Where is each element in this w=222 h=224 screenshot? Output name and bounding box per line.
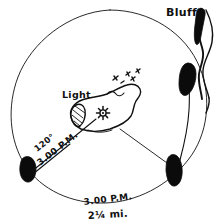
- vessel-mark-lower-right: [166, 155, 182, 186]
- nautical-bearing-diagram: Bluff Light 120° 3.00 P.M. 3.00 P.M. 2¼ …: [0, 0, 222, 224]
- bearing-line-secondary: [120, 129, 167, 163]
- light-star-icon: [97, 107, 110, 120]
- label-arc-distance: 2¼ mi.: [88, 208, 129, 221]
- island-cliff-hatching: [71, 104, 86, 126]
- vessel-mark-upper-right: [179, 63, 196, 95]
- label-bluff: Bluff: [166, 6, 197, 19]
- label-arc-time: 3.00 P.M.: [83, 191, 133, 207]
- label-light: Light: [62, 89, 91, 100]
- rock-marks: [113, 69, 140, 83]
